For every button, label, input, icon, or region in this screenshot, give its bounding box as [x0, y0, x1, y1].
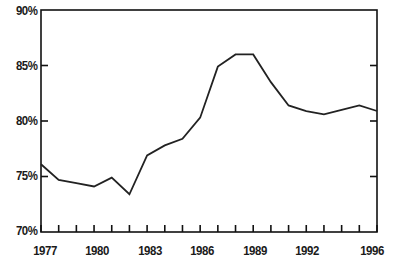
- x-axis-ticks: [41, 225, 377, 232]
- plot-area: [0, 0, 393, 267]
- chart-container: 90% 85% 80% 75% 70% 1977 1980 1983 1986 …: [0, 0, 393, 267]
- data-line-series-1: [41, 54, 377, 194]
- plot-frame: [41, 10, 377, 232]
- y-axis-ticks: [41, 66, 377, 177]
